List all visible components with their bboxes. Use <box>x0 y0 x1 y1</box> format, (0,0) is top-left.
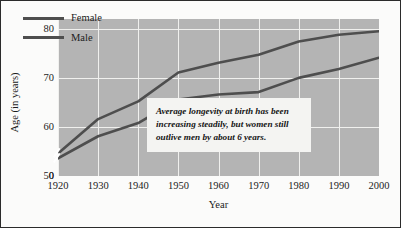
x-axis-label: Year <box>58 199 379 210</box>
annotation-text: Average longevity at birth has been incr… <box>156 105 302 144</box>
x-tick-1960: 1960 <box>208 181 229 192</box>
x-tick-1980: 1980 <box>288 181 309 192</box>
y-axis-break-icon <box>51 149 63 163</box>
x-tick-1950: 1950 <box>168 181 189 192</box>
y-tick-60: 60 <box>20 122 54 133</box>
chart-figure: Female Male Average longevity at birth h… <box>0 0 401 228</box>
x-tick-2000: 2000 <box>369 181 390 192</box>
annotation-box: Average longevity at birth has been incr… <box>147 98 311 152</box>
x-tick-1990: 1990 <box>328 181 349 192</box>
x-tick-1930: 1930 <box>88 181 109 192</box>
y-axis-ticks: 050607080 <box>18 1 54 228</box>
x-tick-1970: 1970 <box>248 181 269 192</box>
x-axis-ticks: 192019301940195019601970198019902000 <box>58 181 379 195</box>
legend-label-male: Male <box>71 33 93 44</box>
x-tick-1940: 1940 <box>128 181 149 192</box>
y-axis-label: Age (in years) <box>9 62 20 144</box>
legend-label-female: Female <box>71 13 102 24</box>
y-tick-80: 80 <box>20 24 54 35</box>
x-tick-1920: 1920 <box>48 181 69 192</box>
y-tick-70: 70 <box>20 73 54 84</box>
